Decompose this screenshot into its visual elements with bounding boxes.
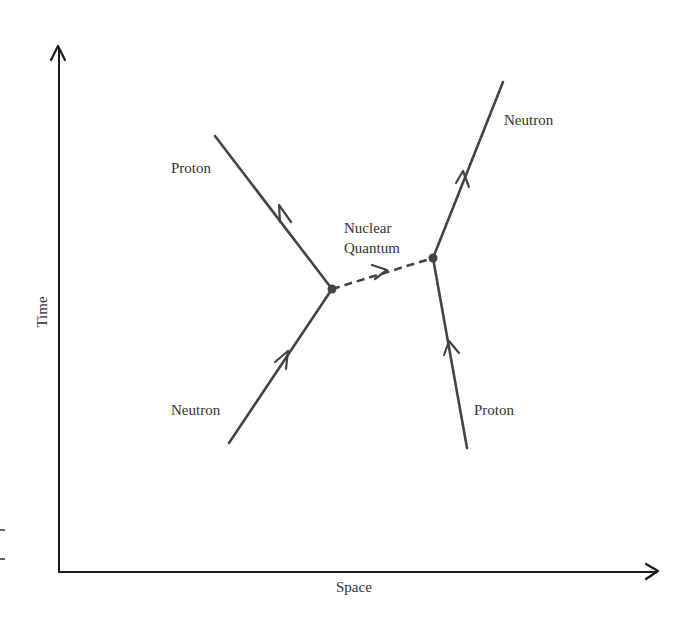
label-nuclear: Nuclear	[344, 220, 391, 236]
spacetime-diagram: Proton Neutron Neutron Proton Nuclear Qu…	[0, 0, 679, 617]
x-axis-label: Space	[336, 579, 372, 595]
left-vertex	[328, 285, 337, 294]
outgoing-proton-line	[215, 136, 332, 289]
direction-arrow-icon	[279, 205, 291, 222]
space-axis	[58, 564, 658, 579]
label-incoming-neutron: Neutron	[171, 402, 221, 418]
nuclear-quantum-exchange-line	[332, 258, 433, 289]
incoming-neutron-line	[229, 289, 332, 443]
label-incoming-proton: Proton	[474, 402, 515, 418]
time-axis	[51, 46, 65, 572]
direction-arrow-icon	[444, 341, 459, 355]
outgoing-neutron-line	[433, 82, 503, 258]
label-quantum: Quantum	[344, 240, 400, 256]
label-outgoing-neutron: Neutron	[504, 112, 554, 128]
y-axis-label: Time	[34, 296, 50, 327]
right-vertex	[429, 254, 438, 263]
label-outgoing-proton: Proton	[171, 160, 212, 176]
incoming-proton-line	[433, 258, 467, 448]
